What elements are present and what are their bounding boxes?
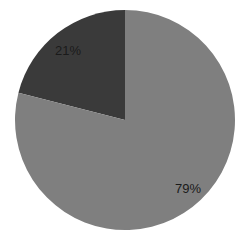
pie-chart: 21% 79% (0, 0, 246, 240)
slice-label-79-percent: 79% (175, 181, 201, 196)
slice-label-21-percent: 21% (55, 43, 81, 58)
pie-chart-svg: 21% 79% (0, 0, 246, 240)
